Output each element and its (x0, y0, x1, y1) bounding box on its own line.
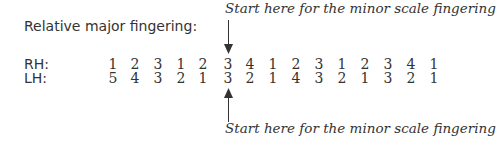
lh-label: LH: (24, 70, 47, 86)
finger-number: 3 (221, 70, 235, 86)
finger-number: 2 (174, 70, 188, 86)
top-annotation: Start here for the minor scale fingering (225, 0, 496, 16)
finger-number: 5 (106, 70, 120, 86)
finger-number: 1 (266, 70, 280, 86)
finger-number: 2 (335, 70, 349, 86)
finger-number: 2 (243, 70, 257, 86)
finger-number: 4 (289, 70, 303, 86)
finger-number: 3 (151, 70, 165, 86)
finger-number: 4 (128, 70, 142, 86)
finger-number: 3 (381, 70, 395, 86)
finger-number: 1 (427, 70, 441, 86)
finger-number: 1 (196, 70, 210, 86)
finger-number: 3 (312, 70, 326, 86)
section-title: Relative major fingering: (24, 18, 197, 34)
bottom-annotation: Start here for the minor scale fingering (225, 120, 496, 136)
finger-number: 1 (358, 70, 372, 86)
finger-number: 2 (404, 70, 418, 86)
